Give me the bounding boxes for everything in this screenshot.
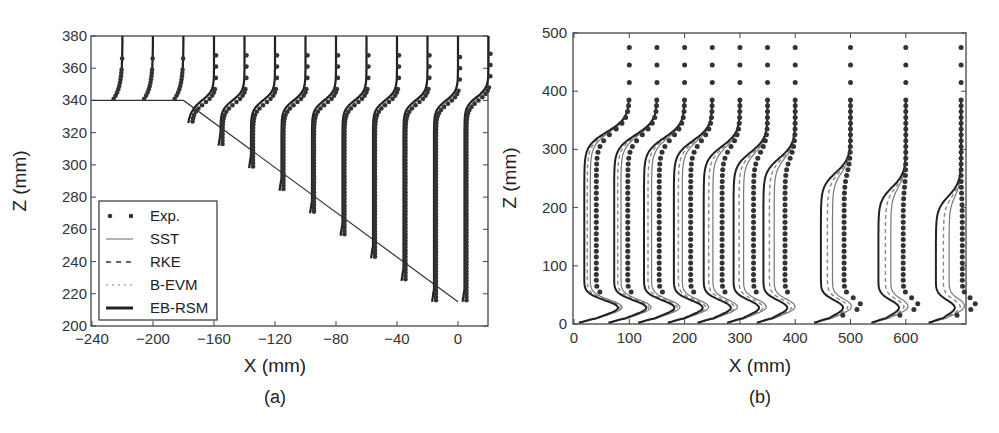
exp-data-point [725, 150, 730, 155]
exp-data-point [903, 80, 908, 85]
x-tick-label: 0 [454, 330, 462, 347]
exp-data-point [326, 100, 331, 105]
exp-data-point [625, 255, 630, 260]
exp-data-point [720, 208, 725, 213]
exp-data-point [793, 97, 798, 102]
exp-data-point [765, 97, 770, 102]
exp-data-point [737, 97, 742, 102]
exp-data-point [720, 260, 725, 265]
exp-data-point [959, 115, 964, 120]
exp-data-point [397, 64, 402, 69]
exp-data-point [962, 289, 967, 294]
exp-data-point [607, 132, 612, 137]
exp-data-point [847, 156, 852, 161]
exp-data-point [788, 156, 793, 161]
exp-data-point [682, 45, 687, 50]
exp-data-point [793, 80, 798, 85]
exp-data-point [594, 202, 599, 207]
exp-data-point [758, 150, 763, 155]
exp-data-point [654, 103, 659, 108]
exp-data-point [755, 156, 760, 161]
exp-data-point [959, 161, 964, 166]
x-tick-label: 200 [672, 329, 697, 346]
exp-data-point [903, 132, 908, 137]
exp-data-point [901, 237, 906, 242]
exp-data-point [708, 121, 713, 126]
exp-data-point [688, 179, 693, 184]
y-tick-label: 200 [542, 199, 567, 216]
exp-data-point [793, 109, 798, 114]
exp-data-point [793, 115, 798, 120]
exp-data-point [657, 167, 662, 172]
exp-data-point [842, 202, 847, 207]
exp-data-point [783, 284, 788, 289]
exp-data-point [847, 161, 852, 166]
exp-data-point [318, 106, 323, 111]
exp-data-point [458, 55, 463, 60]
exp-data-point [626, 161, 631, 166]
exp-data-point [662, 144, 667, 149]
exp-data-point [626, 97, 631, 102]
exp-data-point [627, 80, 632, 85]
exp-data-point [959, 45, 964, 50]
exp-data-point [426, 87, 431, 92]
y-axis-label-a: Z (mm) [9, 150, 30, 211]
exp-data-point [305, 64, 310, 69]
exp-data-point [960, 255, 965, 260]
exp-data-point [903, 63, 908, 68]
exp-data-point [909, 295, 914, 300]
exp-data-point [842, 231, 847, 236]
exp-data-point [688, 191, 693, 196]
exp-data-point [765, 45, 770, 50]
exp-data-point [230, 103, 235, 108]
exp-data-point [960, 260, 965, 265]
x-tick-label: 0 [570, 329, 578, 346]
exp-data-point [626, 284, 631, 289]
exp-data-point [654, 80, 659, 85]
exp-data-point [387, 100, 392, 105]
exp-data-point [901, 196, 906, 201]
y-tick-label: 100 [542, 257, 567, 274]
exp-data-point [851, 295, 856, 300]
exp-data-point [305, 53, 310, 58]
exp-data-point [261, 103, 266, 108]
y-tick-label: 340 [62, 91, 87, 108]
exp-data-point [915, 301, 920, 306]
exp-data-point [689, 284, 694, 289]
exp-data-point [765, 121, 770, 126]
exp-data-point [660, 289, 665, 294]
exp-data-point [625, 225, 630, 230]
exp-data-point [646, 127, 651, 132]
exp-data-point [625, 278, 630, 283]
exp-data-point [959, 144, 964, 149]
exp-data-point [594, 260, 599, 265]
exp-data-point [959, 196, 964, 201]
exp-data-point [751, 191, 756, 196]
exp-data-point [753, 161, 758, 166]
exp-data-point [688, 255, 693, 260]
exp-data-point [752, 173, 757, 178]
exp-data-point [352, 103, 357, 108]
exp-data-point [903, 103, 908, 108]
eb-rsm-profile [609, 101, 657, 323]
exp-data-point [903, 97, 908, 102]
exp-data-point [640, 132, 645, 137]
exp-data-point [688, 173, 693, 178]
exp-data-point [657, 214, 662, 219]
exp-data-point [625, 272, 630, 277]
exp-data-point [751, 208, 756, 213]
exp-data-point [960, 284, 965, 289]
exp-data-point [751, 260, 756, 265]
exp-data-point [488, 63, 493, 68]
x-tick-label: −160 [197, 330, 231, 347]
exp-data-point [625, 249, 630, 254]
exp-data-point [594, 214, 599, 219]
exp-data-point [594, 266, 599, 271]
exp-data-point [720, 173, 725, 178]
exp-data-point [597, 144, 602, 149]
exp-data-point [959, 156, 964, 161]
exp-data-point [751, 225, 756, 230]
exp-data-point [722, 289, 727, 294]
exp-data-point [214, 53, 219, 58]
exp-data-point [688, 272, 693, 277]
